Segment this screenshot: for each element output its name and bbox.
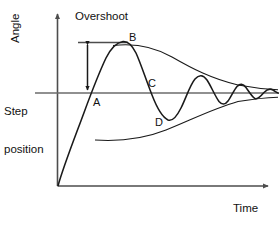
- point-label-c: C: [148, 77, 156, 89]
- point-label-d: D: [155, 116, 163, 128]
- point-label-a: A: [93, 96, 100, 108]
- step-position-label-line1: Step: [4, 105, 44, 118]
- overshoot-label: Overshoot: [75, 10, 128, 23]
- step-position-label: Step position: [4, 79, 44, 182]
- figure-canvas: Angle Time Overshoot Step position A B C…: [0, 0, 280, 226]
- step-response-curve: [58, 41, 279, 186]
- point-label-b: B: [129, 31, 136, 43]
- upper-envelope-curve: [113, 45, 278, 90]
- x-axis-label: Time: [233, 202, 258, 215]
- y-axis-label: Angle: [9, 29, 22, 43]
- step-position-label-line2: position: [4, 143, 44, 156]
- lower-envelope-curve: [95, 97, 278, 140]
